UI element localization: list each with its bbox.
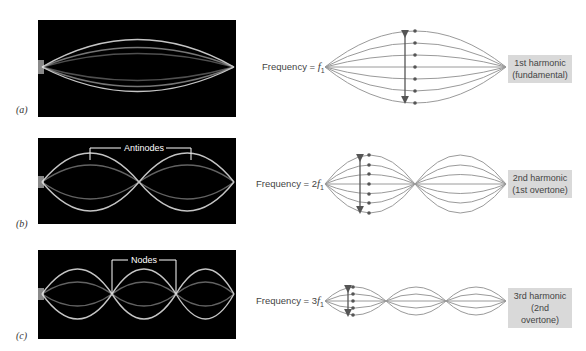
nodes-label: Nodes bbox=[129, 255, 159, 265]
nodes-bracket bbox=[112, 260, 176, 294]
harmonic-label-a: 1st harmonic (fundamental) bbox=[508, 55, 572, 83]
dots-b bbox=[367, 153, 371, 215]
antinodes-label: Antinodes bbox=[122, 143, 166, 153]
vibrating-string-photo-a bbox=[38, 20, 236, 117]
frequency-label-b: Frequency = 2f1 bbox=[256, 177, 324, 191]
photo-third-harmonic-string: Nodes bbox=[38, 250, 236, 339]
third-harmonic-wave bbox=[325, 287, 506, 315]
harmonic-label-c: 3rd harmonic (2nd overtone) bbox=[508, 288, 572, 328]
panel-label-c: (c) bbox=[16, 330, 27, 341]
harmonic-label-b: 2nd harmonic (1st overtone) bbox=[508, 170, 572, 198]
second-harmonic-wave bbox=[325, 155, 506, 213]
photo-fundamental-string bbox=[38, 20, 236, 117]
panel-label-a: (a) bbox=[16, 104, 28, 115]
dots-a bbox=[413, 29, 417, 105]
dots-c bbox=[351, 285, 355, 317]
frequency-label-c: Frequency = 3f1 bbox=[256, 294, 324, 308]
frequency-label-a: Frequency = f1 bbox=[262, 60, 325, 74]
photo-second-harmonic-string: Antinodes bbox=[38, 138, 236, 224]
fundamental-wave bbox=[325, 31, 506, 103]
panel-label-b: (b) bbox=[16, 218, 28, 229]
